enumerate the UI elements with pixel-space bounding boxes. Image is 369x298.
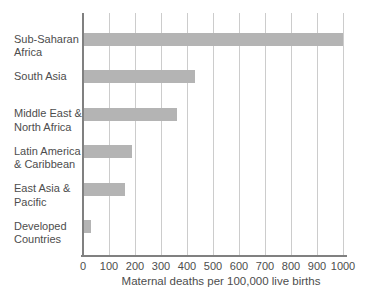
x-tick-label: 300	[152, 260, 170, 272]
bar-developed	[84, 220, 91, 233]
gridline	[213, 13, 214, 255]
x-tick-label: 500	[204, 260, 222, 272]
x-tick-label: 100	[100, 260, 118, 272]
gridline	[265, 13, 266, 255]
bar-east-asia	[84, 183, 125, 196]
gridline	[291, 13, 292, 255]
bar-middle-east	[84, 108, 177, 121]
x-tick-label: 700	[256, 260, 274, 272]
x-axis-label: Maternal deaths per 100,000 live births	[83, 275, 359, 288]
maternal-mortality-bar-chart: 01002003004005006007008009001000Sub-Saha…	[0, 0, 369, 298]
plot-area: 01002003004005006007008009001000Sub-Saha…	[0, 0, 369, 298]
bar-south-asia	[84, 70, 195, 83]
x-axis-line	[81, 255, 347, 257]
gridline	[317, 13, 318, 255]
category-label: Sub-Saharan Africa	[14, 33, 82, 60]
category-label: Middle East & North Africa	[14, 107, 82, 134]
x-tick-label: 900	[308, 260, 326, 272]
x-tick-label: 0	[80, 260, 86, 272]
x-tick-label: 800	[282, 260, 300, 272]
x-tick-label: 1000	[331, 260, 355, 272]
category-label: Developed Countries	[14, 220, 82, 247]
category-label: East Asia & Pacific	[14, 182, 82, 209]
bar-sub-saharan	[84, 33, 343, 46]
gridline	[109, 13, 110, 255]
category-label: South Asia	[14, 70, 82, 84]
gridline	[187, 13, 188, 255]
category-label: Latin America & Caribbean	[14, 145, 82, 172]
gridline	[135, 13, 136, 255]
x-tick-label: 400	[178, 260, 196, 272]
gridline	[161, 13, 162, 255]
x-tick-label: 200	[126, 260, 144, 272]
gridline	[343, 13, 344, 255]
gridline	[239, 13, 240, 255]
bar-latin-america	[84, 145, 132, 158]
x-tick-label: 600	[230, 260, 248, 272]
